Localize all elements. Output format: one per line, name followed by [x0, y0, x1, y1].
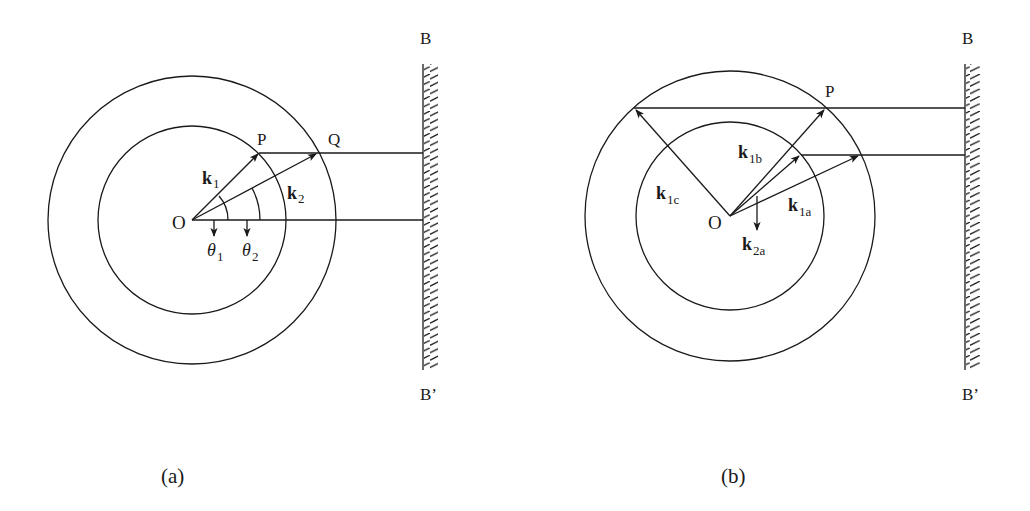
k2a-label: k 2a — [742, 234, 766, 258]
theta2-label: θ 2 — [242, 240, 259, 264]
k1a-label: k 1a — [788, 195, 812, 219]
svg-text:1: 1 — [217, 249, 224, 264]
point-q-label: Q — [328, 130, 340, 149]
svg-text:k: k — [742, 234, 752, 254]
k1-label: k 1 — [202, 168, 220, 191]
theta1-label: θ 1 — [207, 240, 224, 264]
svg-text:2: 2 — [252, 249, 259, 264]
svg-text:k: k — [287, 183, 297, 203]
caption-a: (a) — [161, 464, 184, 488]
k1c-vector-arrow — [636, 110, 730, 216]
svg-text:k: k — [202, 168, 212, 188]
theta2-arc — [252, 188, 260, 220]
svg-text:k: k — [738, 142, 748, 162]
svg-text:1a: 1a — [799, 204, 812, 219]
mirror-top-label: B — [962, 29, 973, 48]
svg-text:k: k — [656, 183, 666, 203]
k2-label: k 2 — [287, 183, 305, 206]
theta1-arc — [219, 196, 228, 220]
origin-label: O — [172, 212, 186, 233]
mirror-top-label: B — [420, 29, 431, 48]
k1b-label: k 1b — [738, 142, 762, 166]
mirror-bottom-label: B’ — [420, 385, 437, 404]
mirror-bottom-label: B’ — [962, 385, 979, 404]
mirror-hatching — [966, 64, 980, 370]
caption-b: (b) — [721, 464, 746, 488]
mirror-hatching — [424, 64, 438, 370]
origin-label: O — [708, 212, 722, 233]
svg-text:2: 2 — [298, 191, 305, 206]
figure-canvas: O P Q B B’ k 1 k 2 θ 1 θ 2 (a) — [0, 0, 1030, 511]
svg-text:2a: 2a — [753, 243, 766, 258]
svg-text:1c: 1c — [667, 192, 680, 207]
svg-text:θ: θ — [242, 240, 251, 260]
svg-text:1b: 1b — [749, 151, 762, 166]
svg-text:k: k — [788, 195, 798, 215]
svg-text:θ: θ — [207, 240, 216, 260]
point-p-label: P — [257, 130, 266, 149]
svg-text:1: 1 — [213, 176, 220, 191]
k1b-vector-arrow — [730, 110, 824, 216]
panel-b: O P B B’ k 1b k 1c k 1a k 2a (b) — [585, 29, 980, 488]
point-p-label: P — [825, 82, 834, 101]
k1c-label: k 1c — [656, 183, 680, 207]
panel-a: O P Q B B’ k 1 k 2 θ 1 θ 2 (a) — [48, 29, 438, 488]
